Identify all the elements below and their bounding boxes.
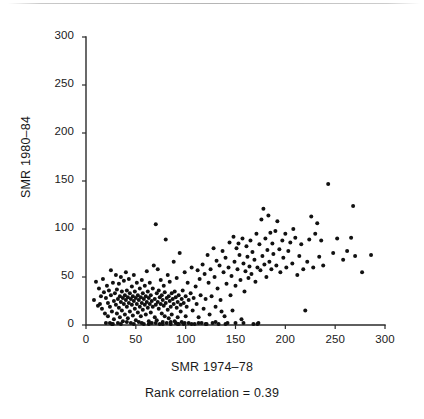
data-point [197, 315, 201, 319]
data-point [213, 275, 217, 279]
data-point [235, 246, 239, 250]
data-point [281, 256, 285, 260]
data-point [192, 296, 196, 300]
data-point [291, 227, 295, 231]
data-point [184, 294, 188, 298]
data-point [107, 288, 111, 292]
data-point [309, 215, 313, 219]
data-point [179, 310, 183, 314]
data-point [120, 309, 124, 313]
data-point [185, 305, 189, 309]
data-point [176, 300, 180, 304]
data-point [290, 262, 294, 266]
data-point [184, 314, 188, 318]
data-point [263, 237, 267, 241]
data-point [159, 278, 163, 282]
data-point [126, 316, 130, 320]
data-point [133, 307, 137, 311]
data-point [176, 315, 180, 319]
data-point [111, 281, 115, 285]
data-point [130, 285, 134, 289]
data-point [144, 312, 148, 316]
data-point [125, 305, 129, 309]
data-point [224, 256, 228, 260]
data-point [319, 239, 323, 243]
data-point [162, 284, 166, 288]
data-point [254, 232, 258, 236]
data-point [195, 302, 199, 306]
data-point [141, 291, 145, 295]
data-point [218, 263, 222, 267]
data-point [202, 307, 206, 311]
data-point [255, 322, 259, 326]
data-point [122, 279, 126, 283]
data-point [284, 265, 288, 269]
data-point [115, 311, 119, 315]
data-point [168, 280, 172, 284]
data-point [115, 287, 119, 291]
data-point [172, 302, 176, 306]
data-point [239, 317, 243, 321]
data-point [208, 312, 212, 316]
data-point [182, 301, 186, 305]
data-point [154, 321, 158, 325]
data-point [275, 219, 279, 223]
data-point [219, 298, 223, 302]
x-axis-title: SMR 1974–78 [0, 360, 424, 374]
data-point [112, 299, 116, 303]
data-point [335, 237, 339, 241]
data-point [138, 287, 142, 291]
data-point [311, 265, 315, 269]
data-point [190, 322, 194, 326]
data-point [204, 297, 208, 301]
data-point [180, 297, 184, 301]
data-point [209, 267, 213, 271]
data-point [169, 305, 173, 309]
data-point [110, 310, 114, 314]
data-point [172, 260, 176, 264]
data-point [131, 313, 135, 317]
data-point [117, 306, 121, 310]
data-point [130, 303, 134, 307]
y-axis-title: SMR 1980–84 [19, 87, 33, 227]
data-point [160, 311, 164, 315]
data-point [315, 221, 319, 225]
data-point [353, 254, 357, 258]
data-point [271, 252, 275, 256]
data-point [146, 289, 150, 293]
data-point [119, 322, 123, 326]
data-point [157, 307, 161, 311]
data-point [105, 284, 109, 288]
data-point [133, 289, 137, 293]
data-point [175, 306, 179, 310]
data-point [251, 322, 255, 326]
data-point [264, 275, 268, 279]
data-point [189, 291, 193, 295]
data-point [108, 305, 112, 309]
data-point [94, 280, 98, 284]
data-point [141, 308, 145, 312]
data-point [167, 316, 171, 320]
data-point [369, 253, 373, 257]
data-point [231, 309, 235, 313]
data-point [128, 310, 132, 314]
data-point [124, 270, 128, 274]
data-point [255, 265, 259, 269]
data-point [206, 253, 210, 257]
data-point [246, 276, 250, 280]
data-point [132, 273, 136, 277]
data-point [140, 278, 144, 282]
data-point [273, 229, 277, 233]
data-point [241, 262, 245, 266]
y-tick-label: 0 [22, 317, 74, 329]
data-point [233, 260, 237, 264]
data-point [301, 267, 305, 271]
data-point [113, 291, 117, 295]
data-point [149, 293, 153, 297]
data-point [216, 287, 220, 291]
data-point [103, 311, 107, 315]
data-point [277, 247, 281, 251]
data-point [146, 306, 150, 310]
data-point [170, 312, 174, 316]
data-point [222, 270, 226, 274]
